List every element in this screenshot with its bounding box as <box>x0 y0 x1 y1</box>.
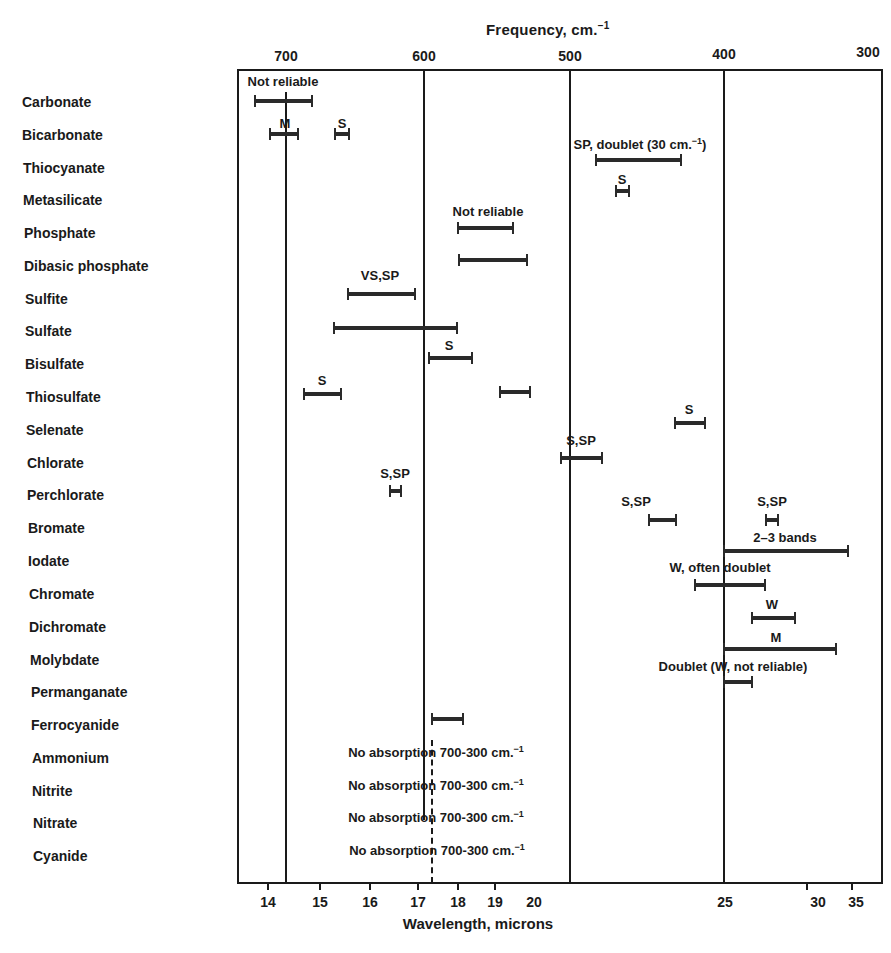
row-label-bisulfate: Bisulfate <box>25 356 84 372</box>
band-carbonate <box>255 99 312 103</box>
row-label-sulfite: Sulfite <box>25 291 68 307</box>
row-label-perchlorate: Perchlorate <box>27 487 104 503</box>
note-sulfite: VS,SP <box>361 268 399 283</box>
row-label-dibasic-phosphate: Dibasic phosphate <box>24 258 148 274</box>
ref-line-600 <box>423 70 425 820</box>
note-nitrite-sup: −1 <box>514 777 524 787</box>
note-phosphate: Not reliable <box>453 204 524 219</box>
note-bromate-1: S,SP <box>621 494 651 509</box>
band-dibasic-phosphate <box>459 258 527 262</box>
bottom-tick-35: 35 <box>848 894 864 910</box>
band-dichromate <box>752 616 795 620</box>
plot-frame <box>237 69 883 884</box>
bottom-tickmark <box>457 883 459 890</box>
row-label-ammonium: Ammonium <box>32 750 109 766</box>
note-nitrate-sup: −1 <box>514 809 524 819</box>
row-label-metasilicate: Metasilicate <box>23 192 102 208</box>
note-iodate: 2–3 bands <box>753 530 817 545</box>
row-label-ferrocyanide: Ferrocyanide <box>31 717 119 733</box>
row-label-molybdate: Molybdate <box>30 652 99 668</box>
note-nitrite: No absorption 700-300 cm.−1 <box>348 777 524 793</box>
bottom-tick-30: 30 <box>810 894 826 910</box>
note-dichromate: W <box>766 597 778 612</box>
band-iodate <box>724 549 848 553</box>
ref-line-400 <box>723 70 725 883</box>
ref-line-500 <box>569 70 571 883</box>
band-thiocyanate <box>596 158 681 162</box>
band-chromate <box>695 583 765 587</box>
row-label-phosphate: Phosphate <box>24 225 96 241</box>
note-cyanide-text: No absorption 700-300 cm. <box>349 843 514 858</box>
band-bisulfate <box>429 356 472 360</box>
note-cyanide: No absorption 700-300 cm.−1 <box>349 842 525 858</box>
band-bicarbonate-1 <box>270 132 298 136</box>
row-label-bromate: Bromate <box>28 520 85 536</box>
note-thiocyanate-sup: −1 <box>692 136 702 146</box>
band-ferrocyanide <box>432 717 463 721</box>
top-axis-title-sup: −1 <box>598 20 610 31</box>
top-tick-600: 600 <box>412 48 435 64</box>
note-selenate: S <box>685 402 694 417</box>
top-tick-400: 400 <box>712 46 735 62</box>
top-axis-title: Frequency, cm.−1 <box>486 20 610 38</box>
top-tick-700: 700 <box>274 48 297 64</box>
band-bicarbonate-2 <box>335 132 349 136</box>
top-axis-title-text: Frequency, cm. <box>486 21 598 38</box>
top-tick-500: 500 <box>558 48 581 64</box>
bottom-tick-16: 16 <box>362 894 378 910</box>
band-thiosulfate-2 <box>500 390 530 394</box>
row-label-iodate: Iodate <box>28 553 69 569</box>
note-metasilicate: S <box>618 172 627 187</box>
note-ammonium: No absorption 700-300 cm.−1 <box>348 744 524 760</box>
band-bromate-2 <box>766 518 778 522</box>
bottom-tick-25: 25 <box>717 894 733 910</box>
bottom-tickmark <box>369 883 371 890</box>
band-thiosulfate-1 <box>304 392 341 396</box>
bottom-tickmark <box>806 883 808 890</box>
note-nitrate-text: No absorption 700-300 cm. <box>348 810 513 825</box>
ref-line-700 <box>285 92 287 883</box>
row-label-selenate: Selenate <box>26 422 84 438</box>
bottom-tickmark <box>851 883 853 890</box>
note-thiocyanate-end: ) <box>702 137 706 152</box>
note-thiocyanate-text: SP, doublet (30 cm. <box>574 137 692 152</box>
band-phosphate <box>458 226 513 230</box>
note-thiocyanate: SP, doublet (30 cm.−1) <box>574 136 707 152</box>
note-molybdate: M <box>771 630 782 645</box>
row-label-chromate: Chromate <box>29 586 94 602</box>
row-label-thiosulfate: Thiosulfate <box>26 389 101 405</box>
note-bromate-2: S,SP <box>757 494 787 509</box>
note-carbonate: Not reliable <box>248 74 319 89</box>
bottom-tick-17: 17 <box>410 894 426 910</box>
note-bicarbonate-s: S <box>338 116 347 131</box>
row-label-bicarbonate: Bicarbonate <box>22 127 103 143</box>
note-nitrite-text: No absorption 700-300 cm. <box>348 778 513 793</box>
band-bromate-1 <box>649 518 676 522</box>
band-selenate <box>675 421 705 425</box>
bottom-tickmark <box>417 883 419 890</box>
band-perchlorate <box>390 489 401 493</box>
band-permanganate <box>724 680 752 684</box>
note-nitrate: No absorption 700-300 cm.−1 <box>348 809 524 825</box>
band-sulfate <box>334 326 457 330</box>
row-label-nitrate: Nitrate <box>33 815 77 831</box>
note-chlorate: S,SP <box>566 433 596 448</box>
bottom-tickmark <box>319 883 321 890</box>
note-chromate: W, often doublet <box>669 560 770 575</box>
band-chlorate <box>561 456 602 460</box>
bottom-tickmark <box>494 883 496 890</box>
note-permanganate: Doublet (W, not reliable) <box>659 659 808 674</box>
bottom-tick-15: 15 <box>312 894 328 910</box>
note-bisulfate: S <box>445 338 454 353</box>
bottom-tickmark <box>267 883 269 890</box>
row-label-dichromate: Dichromate <box>29 619 106 635</box>
row-label-carbonate: Carbonate <box>22 94 91 110</box>
bottom-tick-18: 18 <box>450 894 466 910</box>
row-label-thiocyanate: Thiocyanate <box>23 160 105 176</box>
row-label-nitrite: Nitrite <box>32 783 72 799</box>
note-ammonium-sup: −1 <box>514 744 524 754</box>
note-ammonium-text: No absorption 700-300 cm. <box>348 745 513 760</box>
bottom-tick-20: 20 <box>526 894 542 910</box>
row-label-chlorate: Chlorate <box>27 455 84 471</box>
row-label-cyanide: Cyanide <box>33 848 87 864</box>
